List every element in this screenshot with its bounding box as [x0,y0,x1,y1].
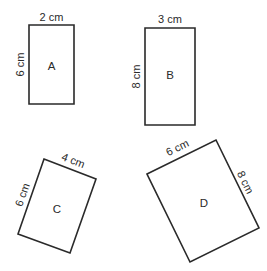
rectangle-a-name: A [48,60,56,72]
rectangle-a: 2 cm 6 cm A [14,11,74,104]
rectangle-b: 3 cm 8 cm B [130,13,195,125]
rectangle-b-name: B [166,69,174,81]
rectangle-b-height-label: 8 cm [130,65,142,89]
rectangle-d-height-label: 8 cm [235,169,256,196]
rectangle-d-name: D [200,197,208,209]
rectangle-d: 6 cm 8 cm D [147,137,259,262]
rectangles-diagram: 2 cm 6 cm A 3 cm 8 cm B 4 cm 6 cm C 6 cm… [0,0,267,271]
rectangle-a-height-label: 6 cm [14,53,26,77]
rectangle-a-width-label: 2 cm [40,11,64,23]
rectangle-c: 4 cm 6 cm C [13,150,96,253]
rectangle-c-name: C [53,203,61,215]
rectangle-b-width-label: 3 cm [158,13,182,25]
